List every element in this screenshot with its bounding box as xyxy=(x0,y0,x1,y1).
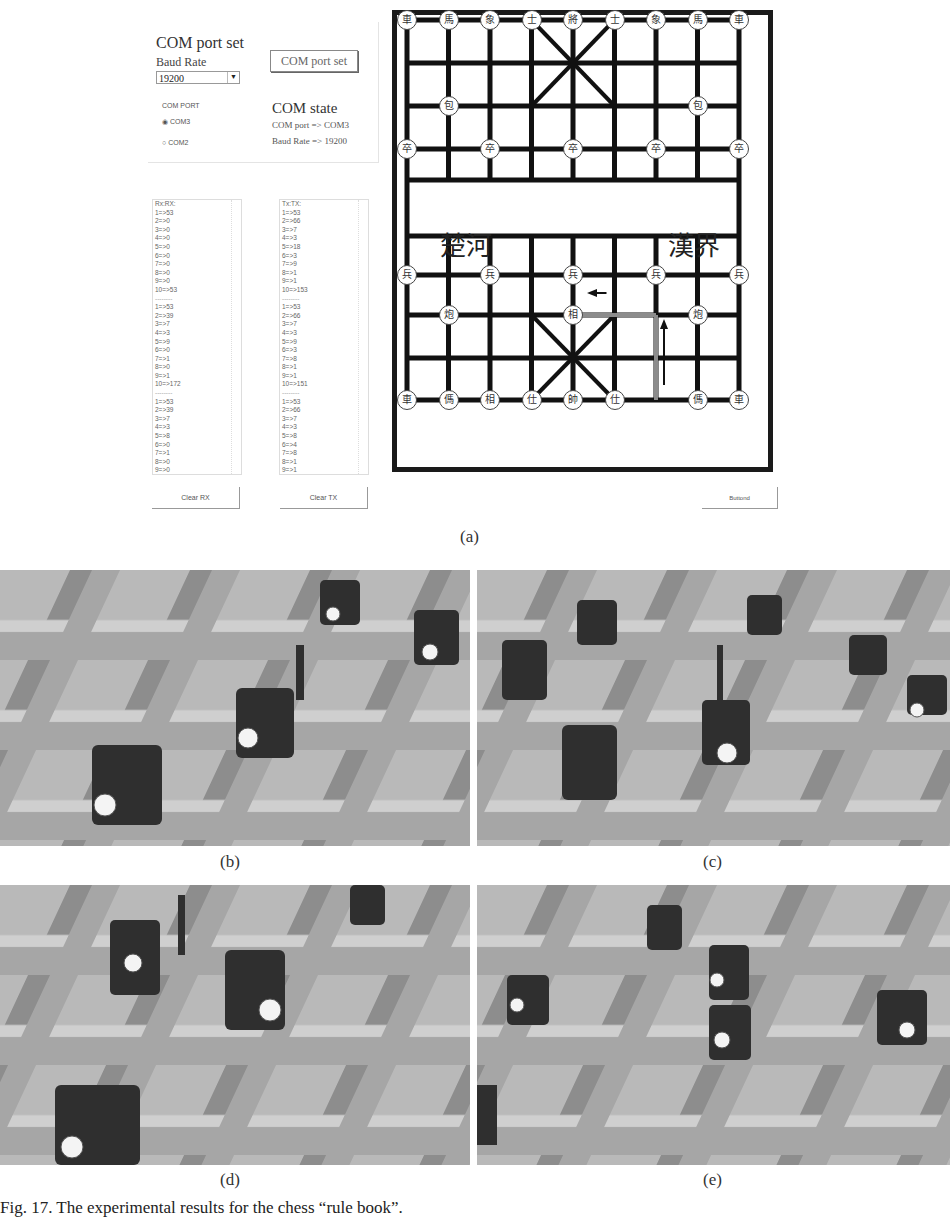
com-port-group-label: COM PORT xyxy=(162,102,200,109)
chess-piece-black[interactable]: 士 xyxy=(522,10,542,30)
tx-line: 2=>66 xyxy=(282,217,368,226)
clear-tx-button[interactable]: Clear TX xyxy=(280,487,368,509)
rx-line: 9=>0 xyxy=(155,466,241,475)
rx-line: 2=>0 xyxy=(155,217,241,226)
chess-piece-red[interactable]: 車 xyxy=(397,390,417,410)
rx-line: 8=>0 xyxy=(155,458,241,467)
chess-piece-black[interactable]: 象 xyxy=(646,10,666,30)
tx-line: 10=>151 xyxy=(282,380,368,389)
chess-piece-black-pawn[interactable]: 卒 xyxy=(397,139,417,159)
chess-piece-red-pawn[interactable]: 兵 xyxy=(646,265,666,285)
baud-rate-label: Baud Rate xyxy=(156,55,206,70)
chess-piece-red-elephant-moved[interactable]: 相 xyxy=(563,305,583,325)
tx-line: 10=>153 xyxy=(282,286,368,295)
chess-piece-red[interactable]: 仕 xyxy=(605,390,625,410)
rx-line: 3=>0 xyxy=(155,226,241,235)
rx-line: 9=>0 xyxy=(155,277,241,286)
river-right-text: 漢界 xyxy=(668,225,720,262)
tx-line: 5=>8 xyxy=(282,432,368,441)
radio-unselected-icon[interactable]: ○ xyxy=(162,139,166,146)
tx-line: 8=>1 xyxy=(282,363,368,372)
rx-line: 6=>0 xyxy=(155,441,241,450)
rx-scrollbar[interactable] xyxy=(231,200,241,474)
baud-rate-value: 19200 xyxy=(159,73,184,84)
panel-a-label: (a) xyxy=(460,527,479,547)
chess-piece-red-pawn[interactable]: 兵 xyxy=(397,265,417,285)
com-state-title: COM state xyxy=(272,100,337,117)
tx-header: Tx:TX: xyxy=(282,200,368,209)
board-button[interactable]: Buttond xyxy=(702,487,778,509)
rx-line: 2=>39 xyxy=(155,312,241,321)
chess-piece-red-cannon[interactable]: 炮 xyxy=(439,305,459,325)
chess-piece-black-cannon[interactable]: 包 xyxy=(688,96,708,116)
chess-piece-red[interactable]: 傌 xyxy=(688,390,708,410)
tx-lines: 1=>532=>663=>74=>35=>186=>37=>98=>19=>11… xyxy=(282,209,368,475)
rx-line: 3=>7 xyxy=(155,320,241,329)
tx-line: 4=>3 xyxy=(282,234,368,243)
radio-com3[interactable]: ◉ COM3 xyxy=(162,118,190,126)
photo-c-robots-in-maze xyxy=(477,570,950,846)
com-port-set-button[interactable]: COM port set xyxy=(270,50,358,72)
chess-piece-black[interactable]: 車 xyxy=(397,10,417,30)
chess-piece-black-pawn[interactable]: 卒 xyxy=(646,139,666,159)
chess-piece-black-pawn[interactable]: 卒 xyxy=(563,139,583,159)
chess-piece-red-cannon[interactable]: 炮 xyxy=(688,305,708,325)
rx-line: 7=>0 xyxy=(155,260,241,269)
com-state-port: COM port => COM3 xyxy=(272,120,349,130)
list-separator: -------- xyxy=(155,295,241,304)
clear-rx-button[interactable]: Clear RX xyxy=(152,487,240,509)
com-settings-panel: COM port set Baud Rate 19200 ▼ COM port … xyxy=(148,22,379,163)
chess-piece-red[interactable]: 車 xyxy=(729,390,749,410)
rx-line: 4=>3 xyxy=(155,423,241,432)
chess-piece-red[interactable]: 仕 xyxy=(522,390,542,410)
photo-b-robots-in-maze xyxy=(0,570,470,846)
rx-listbox[interactable]: Rx:RX: 1=>532=>03=>04=>05=>06=>07=>08=>0… xyxy=(152,199,242,475)
tx-line: 4=>3 xyxy=(282,423,368,432)
chess-piece-black[interactable]: 士 xyxy=(605,10,625,30)
rx-line: 6=>0 xyxy=(155,346,241,355)
tx-listbox[interactable]: Tx:TX: 1=>532=>663=>74=>35=>186=>37=>98=… xyxy=(279,199,369,475)
tx-line: 7=>8 xyxy=(282,355,368,364)
tx-line: 6=>3 xyxy=(282,252,368,261)
tx-line: 5=>9 xyxy=(282,338,368,347)
rx-line: 8=>0 xyxy=(155,363,241,372)
chess-piece-red[interactable]: 相 xyxy=(480,390,500,410)
rx-line: 2=>39 xyxy=(155,406,241,415)
chess-piece-black[interactable]: 象 xyxy=(480,10,500,30)
chess-piece-black[interactable]: 馬 xyxy=(688,10,708,30)
radio-com2[interactable]: ○ COM2 xyxy=(162,139,188,146)
rx-header: Rx:RX: xyxy=(155,200,241,209)
tx-line: 2=>66 xyxy=(282,312,368,321)
chess-piece-black-pawn[interactable]: 卒 xyxy=(480,139,500,159)
chess-piece-black-pawn[interactable]: 卒 xyxy=(729,139,749,159)
rx-lines: 1=>532=>03=>04=>05=>06=>07=>08=>09=>010=… xyxy=(155,209,241,475)
chess-piece-black-cannon[interactable]: 包 xyxy=(439,96,459,116)
chess-piece-black[interactable]: 將 xyxy=(563,10,583,30)
tx-scrollbar[interactable] xyxy=(358,200,368,474)
chess-piece-black[interactable]: 馬 xyxy=(439,10,459,30)
rx-line: 1=>53 xyxy=(155,209,241,218)
tx-line: 7=>9 xyxy=(282,260,368,269)
tx-line: 3=>7 xyxy=(282,320,368,329)
panel-c-label: (c) xyxy=(703,852,722,872)
chevron-down-icon[interactable]: ▼ xyxy=(227,72,239,83)
com-port-set-title: COM port set xyxy=(156,34,244,52)
tx-line: 7=>8 xyxy=(282,449,368,458)
rx-line: 9=>1 xyxy=(155,372,241,381)
baud-rate-select[interactable]: 19200 ▼ xyxy=(156,71,240,84)
chess-piece-red[interactable]: 帥 xyxy=(563,390,583,410)
rx-line: 5=>9 xyxy=(155,338,241,347)
tx-line: 1=>53 xyxy=(282,398,368,407)
chess-piece-red-pawn[interactable]: 兵 xyxy=(480,265,500,285)
rx-line: 5=>8 xyxy=(155,432,241,441)
radio-selected-icon[interactable]: ◉ xyxy=(162,118,168,125)
chess-piece-red-pawn[interactable]: 兵 xyxy=(563,265,583,285)
panel-b-label: (b) xyxy=(220,852,240,872)
figure-caption: Fig. 17. The experimental results for th… xyxy=(0,1198,403,1217)
tx-line: 8=>1 xyxy=(282,458,368,467)
chess-piece-red-pawn[interactable]: 兵 xyxy=(729,265,749,285)
tx-line: 6=>3 xyxy=(282,346,368,355)
chess-piece-black[interactable]: 車 xyxy=(729,10,749,30)
rx-line: 7=>1 xyxy=(155,355,241,364)
chess-piece-red[interactable]: 傌 xyxy=(439,390,459,410)
